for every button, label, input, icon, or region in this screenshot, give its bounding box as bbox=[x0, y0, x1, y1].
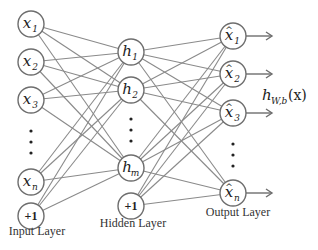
node-subscript: 2 bbox=[233, 74, 240, 84]
edge bbox=[31, 62, 131, 168]
node-label: x bbox=[23, 90, 32, 108]
input-node-x1: x1 bbox=[18, 11, 44, 37]
node-subscript: n bbox=[234, 193, 240, 203]
ellipsis-dot bbox=[231, 164, 234, 167]
ellipsis-dot bbox=[29, 129, 32, 132]
output-layer-title: Output Layer bbox=[206, 205, 270, 219]
node-subscript: 2 bbox=[131, 90, 138, 100]
node-subscript: n bbox=[32, 182, 38, 192]
edge bbox=[31, 24, 131, 52]
ellipsis-dot bbox=[29, 151, 32, 154]
node-label: h bbox=[122, 42, 132, 60]
hat-icon: ^ bbox=[225, 102, 233, 112]
input-layer-title: Input Layer bbox=[9, 224, 65, 238]
node-label: x bbox=[23, 14, 32, 32]
ellipsis-dot bbox=[129, 139, 132, 142]
output-node-xhat3: x3^ bbox=[220, 100, 246, 126]
ellipsis-dot bbox=[129, 117, 132, 120]
input-node-x3: x3 bbox=[18, 87, 44, 113]
output-node-xhat1: x1^ bbox=[220, 23, 246, 49]
node-subscript: 2 bbox=[31, 62, 38, 72]
hidden-node-hm: hm bbox=[118, 155, 144, 181]
ellipsis-dot bbox=[231, 142, 234, 145]
function-argument: (x) bbox=[288, 87, 307, 103]
hat-icon: ^ bbox=[225, 25, 233, 35]
function-subscript: W,b bbox=[271, 96, 288, 106]
input-node-xn: xn bbox=[18, 169, 44, 195]
node-label: h bbox=[122, 80, 132, 98]
output-node-xhat2: x2^ bbox=[220, 61, 246, 87]
ellipsis-dot bbox=[129, 128, 132, 131]
neural-network-diagram: x1x2x3xn+1h1h2hm+1x1^x2^x3^xn^ Input Lay… bbox=[0, 0, 318, 250]
node-subscript: 3 bbox=[234, 113, 240, 123]
edge bbox=[31, 52, 131, 62]
node-subscript: m bbox=[131, 168, 140, 178]
edge bbox=[31, 24, 131, 168]
output-arrows bbox=[246, 32, 272, 197]
edge bbox=[31, 90, 131, 216]
edge bbox=[31, 90, 131, 182]
ellipsis-dot bbox=[29, 140, 32, 143]
ellipsis-dot bbox=[231, 153, 234, 156]
node-subscript: 1 bbox=[132, 52, 138, 62]
output-function-label: hW,b(x) bbox=[262, 86, 307, 106]
node-subscript: 3 bbox=[32, 100, 38, 110]
node-label: x bbox=[23, 52, 32, 70]
bias-label: +1 bbox=[125, 199, 138, 213]
edge bbox=[31, 90, 131, 100]
node-label: x bbox=[23, 172, 32, 190]
edge bbox=[131, 90, 233, 193]
edge bbox=[31, 52, 131, 182]
hidden-node-h1: h1 bbox=[118, 39, 144, 65]
hat-icon: ^ bbox=[225, 182, 233, 192]
hidden-layer-title: Hidden Layer bbox=[100, 216, 166, 230]
input-node-x2: x2 bbox=[18, 49, 44, 75]
output-node-xhatn: xn^ bbox=[220, 180, 246, 206]
hidden-node-h2: h2 bbox=[118, 77, 144, 103]
hat-icon: ^ bbox=[225, 63, 233, 73]
node-subscript: 1 bbox=[32, 24, 38, 34]
node-subscript: 1 bbox=[234, 36, 240, 46]
bias-label: +1 bbox=[25, 209, 38, 223]
